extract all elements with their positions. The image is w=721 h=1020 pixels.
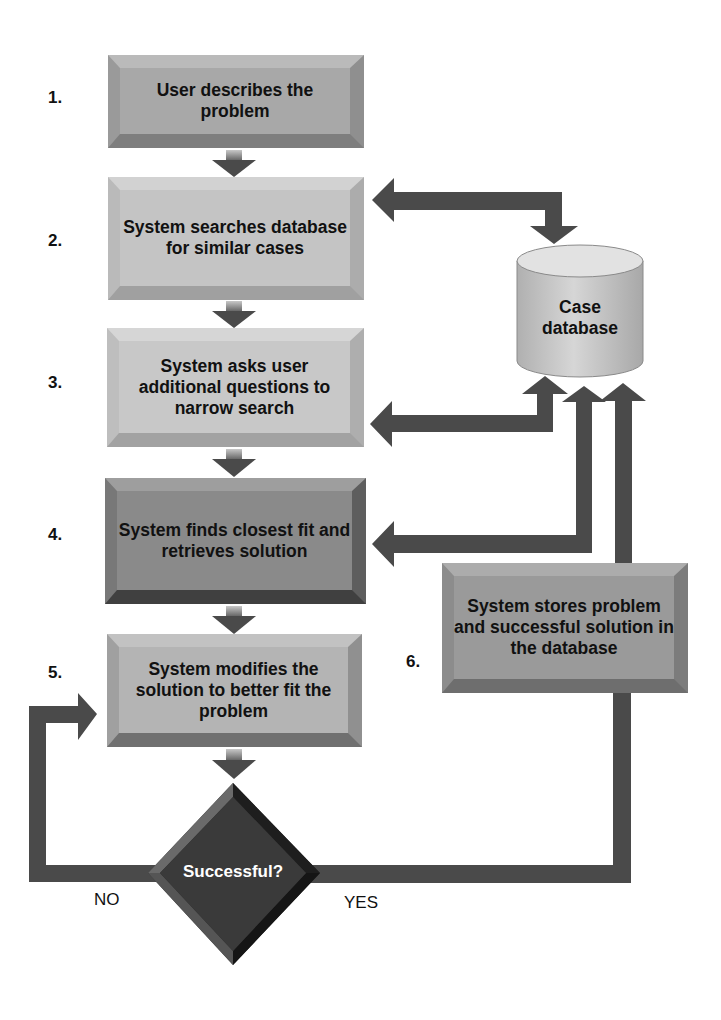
step-text-5: System modifies the solution to better f… — [119, 647, 348, 733]
arrow-database-box4 — [372, 386, 606, 567]
arrow-box6-database — [600, 383, 646, 563]
step-text-1: User describes the problem — [120, 68, 350, 134]
step-box-6: System stores problem and successful sol… — [442, 563, 688, 693]
step-number-2: 2. — [48, 231, 62, 251]
step-number-3: 3. — [48, 373, 62, 393]
connector-arrow-4-5 — [212, 606, 256, 634]
connector-arrow-2-3 — [212, 301, 256, 328]
case-database-label: Case database — [517, 297, 643, 339]
connector-arrow-3-4 — [212, 449, 256, 477]
step-box-1: User describes the problem — [108, 55, 364, 148]
step-number-1: 1. — [48, 88, 62, 108]
step-text-3: System asks user additional questions to… — [119, 341, 350, 433]
connector-arrow-1-2 — [212, 150, 256, 177]
case-database-label-line1: Case — [517, 297, 643, 318]
step-box-4: System finds closest fit and retrieves s… — [105, 478, 366, 604]
step-text-4: System finds closest fit and retrieves s… — [117, 491, 352, 590]
step-number-6: 6. — [406, 652, 420, 672]
arrow-box2-database — [372, 178, 578, 244]
case-database-label-line2: database — [517, 318, 643, 339]
step-box-2: System searches database for similar cas… — [108, 177, 364, 300]
no-label: NO — [94, 890, 120, 910]
arrow-database-box3 — [370, 376, 568, 447]
step-box-3: System asks user additional questions to… — [107, 328, 364, 447]
yes-label: YES — [344, 893, 378, 913]
step-text-2: System searches database for similar cas… — [120, 190, 350, 286]
step-text-6: System stores problem and successful sol… — [454, 576, 674, 679]
step-box-5: System modifies the solution to better f… — [107, 634, 362, 747]
connector-arrow-5-decision — [212, 749, 256, 779]
step-number-4: 4. — [48, 525, 62, 545]
decision-label: Successful? — [163, 862, 303, 882]
step-number-5: 5. — [48, 663, 62, 683]
